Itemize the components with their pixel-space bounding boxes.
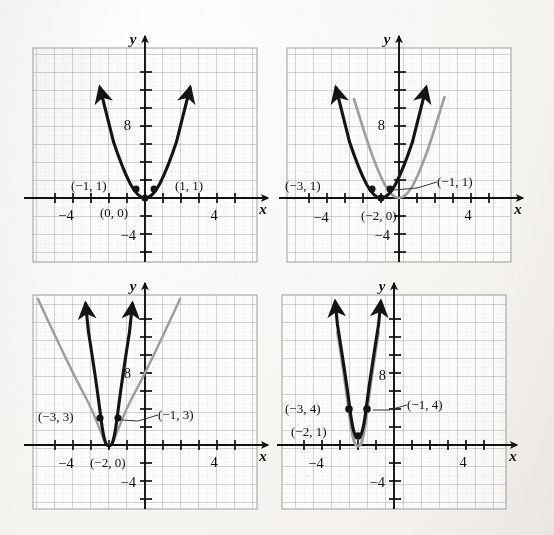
x-axis-label: x — [508, 448, 517, 464]
y-tick-positive-label: 8 — [379, 367, 386, 383]
y-tick-positive-label: 8 — [124, 365, 131, 381]
x-tick-positive-label: 4 — [459, 454, 467, 470]
point-label-left: (−3, 3) — [38, 409, 74, 424]
x-tick-positive-label: 4 — [464, 207, 472, 223]
graph-panel-shift-up-one: (−3, 4) (−1, 4) (−2, 1) −4 4 8 −4 x y — [277, 268, 554, 535]
vertex-label: (−2, 0) — [90, 455, 126, 470]
point-label-left: (−3, 1) — [285, 178, 321, 193]
y-axis-label: y — [128, 278, 137, 294]
x-tick-negative-label: −4 — [58, 207, 74, 223]
vertex-label: (−2, 0) — [361, 208, 397, 223]
graph-panel-vertical-stretch: (−3, 3) (−1, 3) (−2, 0) −4 4 8 −4 x y — [0, 268, 277, 535]
x-tick-positive-label: 4 — [210, 207, 218, 223]
vertex-label: (−2, 1) — [291, 424, 327, 439]
y-tick-positive-label: 8 — [378, 117, 385, 133]
graph-panel-shift-left-two: (−3, 1) (−1, 1) (−2, 0) −4 4 8 −4 x y — [277, 0, 554, 267]
y-tick-positive-label: 8 — [124, 117, 131, 133]
x-axis-label: x — [258, 201, 267, 217]
vertex-label: (0, 0) — [100, 205, 128, 220]
x-tick-negative-label: −4 — [58, 455, 74, 471]
y-tick-negative-label: −4 — [375, 227, 391, 243]
point-label-left: (−3, 4) — [285, 401, 321, 416]
graph-panel-base-parabola: (−1, 1) (1, 1) (0, 0) −4 4 8 −4 x y — [0, 0, 277, 267]
y-axis-label: y — [128, 31, 137, 47]
point-label-right: (−1, 3) — [158, 407, 194, 422]
y-axis-label: y — [382, 31, 391, 47]
x-tick-negative-label: −4 — [313, 209, 329, 225]
figure-root: (−1, 1) (1, 1) (0, 0) −4 4 8 −4 x y — [0, 0, 554, 535]
y-tick-negative-label: −4 — [121, 474, 137, 490]
point-label-right: (−1, 1) — [437, 174, 473, 189]
point-label-right: (1, 1) — [175, 178, 203, 193]
x-tick-positive-label: 4 — [210, 454, 218, 470]
point-label-left: (−1, 1) — [71, 178, 107, 193]
y-tick-negative-label: −4 — [121, 227, 137, 243]
x-axis-label: x — [258, 448, 267, 464]
y-tick-negative-label: −4 — [370, 474, 386, 490]
point-label-right: (−1, 4) — [407, 397, 443, 412]
y-axis-label: y — [377, 278, 386, 294]
x-tick-negative-label: −4 — [308, 455, 324, 471]
x-axis-label: x — [513, 201, 522, 217]
